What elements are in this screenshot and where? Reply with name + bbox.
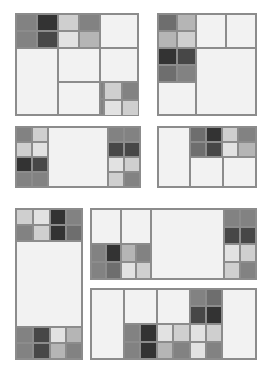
partition-cell xyxy=(190,306,206,324)
partition-cell xyxy=(50,327,66,343)
partition-cell xyxy=(240,209,256,227)
partition-cell xyxy=(16,209,33,225)
partition-panel-top-right-square xyxy=(157,13,257,116)
partition-cell xyxy=(158,65,177,82)
partition-cell xyxy=(124,172,140,187)
partition-cell xyxy=(206,127,222,142)
partition-cell xyxy=(16,14,37,31)
partition-cell xyxy=(157,342,173,359)
partition-cell xyxy=(206,289,222,306)
partition-cell xyxy=(66,327,82,343)
partition-cell xyxy=(37,14,58,31)
figure-canvas xyxy=(0,0,266,369)
partition-cell xyxy=(157,324,173,342)
partition-cell xyxy=(33,225,50,241)
partition-cell xyxy=(140,342,157,359)
partition-cell xyxy=(224,262,240,279)
partition-cell xyxy=(206,342,222,359)
partition-cell xyxy=(33,343,50,359)
partition-cell xyxy=(158,31,177,48)
partition-cell xyxy=(190,157,223,187)
partition-cell xyxy=(224,244,240,262)
partition-cell xyxy=(66,343,82,359)
partition-cell xyxy=(238,127,256,142)
partition-cell xyxy=(140,324,157,342)
partition-cell xyxy=(173,324,190,342)
partition-cell xyxy=(124,157,140,172)
partition-cell xyxy=(37,31,58,48)
partition-cell xyxy=(32,172,48,187)
partition-cell xyxy=(158,48,177,65)
partition-cell xyxy=(16,327,33,343)
partition-cell xyxy=(16,172,32,187)
partition-cell xyxy=(100,14,138,48)
partition-cell xyxy=(157,289,190,324)
partition-cell xyxy=(151,209,224,279)
partition-cell xyxy=(222,289,256,359)
partition-cell xyxy=(124,342,140,359)
partition-cell xyxy=(124,289,157,324)
partition-cell xyxy=(124,142,140,157)
partition-cell xyxy=(177,31,196,48)
partition-cell xyxy=(50,225,66,241)
partition-cell xyxy=(121,262,136,279)
partition-panel-top-left-square-extension xyxy=(103,81,139,116)
partition-cell xyxy=(91,209,121,244)
partition-cell xyxy=(32,127,48,142)
partition-cell xyxy=(124,127,140,142)
partition-cell xyxy=(196,48,256,115)
partition-cell xyxy=(173,342,190,359)
partition-cell xyxy=(222,142,238,157)
partition-cell xyxy=(108,142,124,157)
partition-cell xyxy=(121,244,136,262)
partition-cell xyxy=(66,209,82,225)
partition-cell xyxy=(48,127,108,187)
partition-cell xyxy=(177,48,196,65)
partition-panel-middle-right-wide xyxy=(157,126,257,188)
partition-cell xyxy=(124,324,140,342)
partition-cell xyxy=(190,127,206,142)
partition-cell xyxy=(33,209,50,225)
partition-cell xyxy=(240,262,256,279)
partition-cell xyxy=(58,48,100,82)
partition-cell xyxy=(50,209,66,225)
partition-cell xyxy=(177,14,196,31)
partition-cell xyxy=(240,244,256,262)
partition-cell xyxy=(58,82,100,115)
partition-cell xyxy=(16,241,82,327)
partition-cell xyxy=(158,127,190,187)
partition-cell xyxy=(16,127,32,142)
partition-cell xyxy=(158,82,196,115)
partition-cell xyxy=(224,209,240,227)
partition-cell xyxy=(206,324,222,342)
partition-cell xyxy=(16,31,37,48)
partition-panel-bottom-right-wide-lower xyxy=(90,288,257,360)
partition-cell xyxy=(226,14,256,48)
partition-cell xyxy=(104,100,122,116)
partition-cell xyxy=(136,262,151,279)
partition-cell xyxy=(100,48,138,82)
partition-cell xyxy=(58,31,79,48)
partition-cell xyxy=(16,48,58,115)
partition-cell xyxy=(106,244,121,262)
partition-cell xyxy=(16,343,33,359)
partition-cell xyxy=(108,157,124,172)
partition-cell xyxy=(58,14,79,31)
partition-cell xyxy=(177,65,196,82)
partition-cell xyxy=(106,262,121,279)
partition-cell xyxy=(190,324,206,342)
partition-cell xyxy=(196,14,226,48)
partition-cell xyxy=(121,209,151,244)
partition-cell xyxy=(158,14,177,31)
partition-cell xyxy=(66,225,82,241)
partition-cell xyxy=(240,227,256,244)
partition-cell xyxy=(206,306,222,324)
partition-cell xyxy=(91,244,106,262)
partition-cell xyxy=(222,127,238,142)
partition-cell xyxy=(190,289,206,306)
partition-cell xyxy=(190,142,206,157)
partition-cell xyxy=(224,227,240,244)
partition-panel-middle-left-wide xyxy=(15,126,141,188)
partition-cell xyxy=(32,142,48,157)
partition-cell xyxy=(32,157,48,172)
